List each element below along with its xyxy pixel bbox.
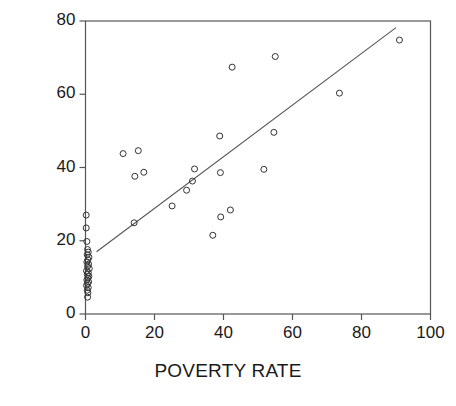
axis-ticks xyxy=(80,21,431,320)
data-point xyxy=(227,207,233,213)
data-point xyxy=(210,232,216,238)
y-tick-label: 20 xyxy=(36,230,76,250)
plot-canvas xyxy=(0,0,456,406)
x-tick-label: 80 xyxy=(332,323,392,343)
data-point xyxy=(132,173,138,179)
y-tick-label: 0 xyxy=(36,303,76,323)
data-point xyxy=(229,64,235,70)
y-axis-label-wrapper: INFORMAL SHARE xyxy=(0,0,231,36)
data-point xyxy=(218,214,224,220)
data-point xyxy=(271,129,277,135)
x-axis-label: POVERTY RATE xyxy=(0,360,456,382)
data-point xyxy=(396,37,402,43)
trend-line xyxy=(97,28,396,252)
data-point xyxy=(217,170,223,176)
y-tick-label: 40 xyxy=(36,157,76,177)
data-point xyxy=(83,212,89,218)
data-point xyxy=(83,225,89,231)
data-point xyxy=(120,151,126,157)
x-tick-label: 20 xyxy=(125,323,185,343)
y-tick-label: 60 xyxy=(36,83,76,103)
scatter-plot-figure: 020406080020406080100 INFORMAL SHARE POV… xyxy=(0,0,456,406)
data-point xyxy=(131,220,137,226)
x-tick-label: 60 xyxy=(263,323,323,343)
data-point xyxy=(192,166,198,172)
data-point xyxy=(169,203,175,209)
plot-frame xyxy=(86,21,431,314)
data-point xyxy=(272,54,278,60)
data-points xyxy=(83,37,402,300)
data-point xyxy=(135,148,141,154)
data-point xyxy=(261,166,267,172)
axes-frame xyxy=(86,21,431,314)
regression-line xyxy=(97,28,396,252)
data-point xyxy=(336,90,342,96)
x-tick-label: 40 xyxy=(194,323,254,343)
x-tick-label: 100 xyxy=(401,323,456,343)
data-point xyxy=(84,238,90,244)
data-point xyxy=(141,169,147,175)
data-point xyxy=(217,133,223,139)
data-point xyxy=(184,187,190,193)
x-tick-label: 0 xyxy=(56,323,116,343)
